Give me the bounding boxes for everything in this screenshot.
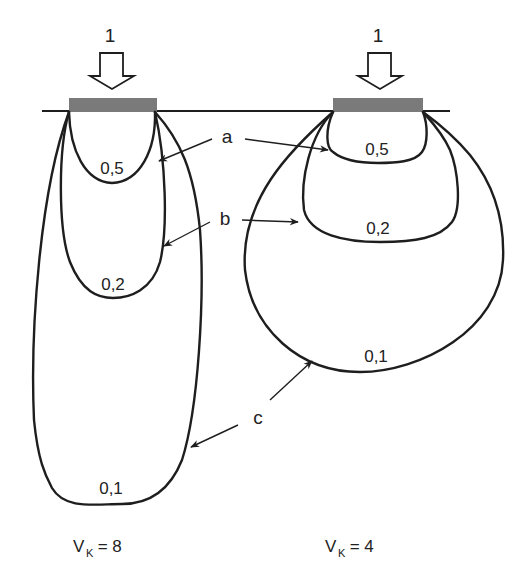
right-contour-label-0-5: 0,5 [365, 140, 389, 159]
left-panel: 1 0,5 0,2 0,1 V K = 8 [33, 25, 201, 559]
callout-c-left-arrow [191, 425, 238, 447]
callout-c-right-arrow [270, 361, 312, 400]
callout-b-left-arrow [164, 222, 210, 246]
callout-a-left-arrow [159, 139, 212, 161]
pressure-bulb-diagram: 1 0,5 0,2 0,1 V K = 8 1 0,5 0,2 0,1 [0, 0, 527, 586]
left-ratio-var: V [73, 537, 85, 556]
callout-label-c: c [253, 407, 263, 428]
left-ratio-eq: = 8 [93, 537, 122, 556]
left-contour-label-0-1: 0,1 [99, 479, 123, 498]
left-load-label: 1 [105, 25, 116, 46]
left-ratio-label: V K = 8 [73, 537, 122, 559]
right-load-arrow-icon [358, 53, 402, 89]
left-load-arrow-icon [90, 53, 134, 89]
right-load-label: 1 [373, 25, 384, 46]
left-contour-0-2 [61, 112, 165, 298]
callout-c: c [191, 361, 312, 447]
right-ratio-var: V [325, 537, 337, 556]
right-contour-label-0-1: 0,1 [364, 347, 388, 366]
left-contour-label-0-2: 0,2 [101, 275, 125, 294]
right-ratio-label: V K = 4 [325, 537, 374, 559]
right-contour-label-0-2: 0,2 [366, 219, 390, 238]
right-footing [333, 98, 423, 112]
callout-b: b [164, 208, 298, 246]
left-footing [69, 98, 157, 112]
left-contour-label-0-5: 0,5 [100, 159, 124, 178]
callout-label-b: b [220, 208, 231, 229]
callout-label-a: a [222, 126, 233, 147]
right-panel: 1 0,5 0,2 0,1 V K = 4 [245, 25, 504, 559]
right-ratio-eq: = 4 [345, 537, 374, 556]
